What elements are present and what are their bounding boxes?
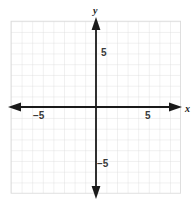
y-axis-tick-label-negative-5: −5 xyxy=(97,159,108,169)
coordinate-plane-svg xyxy=(0,0,194,209)
y-axis-label: y xyxy=(93,6,97,16)
coordinate-plane-figure: −5 5 5 −5 x y xyxy=(0,0,194,209)
y-axis-tick-label-positive-5: 5 xyxy=(101,48,107,58)
x-axis-tick-label-positive-5: 5 xyxy=(145,111,151,121)
x-axis-tick-label-negative-5: −5 xyxy=(33,111,44,121)
x-axis-label: x xyxy=(185,104,190,114)
